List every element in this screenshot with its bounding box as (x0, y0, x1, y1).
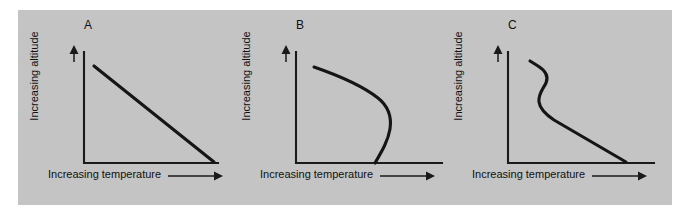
y-arrow-head-b (282, 45, 291, 54)
y-arrow-head-c (494, 45, 503, 54)
diagram-panel-a: A Increasing temperature Increasing alti… (18, 10, 236, 205)
diagram-panel-c: C Increasing temperature Increasing alti… (442, 10, 660, 205)
y-axis-arrow-b (230, 10, 448, 205)
y-axis-arrow-a (18, 10, 236, 205)
y-axis-arrow-c (442, 10, 660, 205)
figure-panel: A Increasing temperature Increasing alti… (18, 10, 672, 205)
y-arrow-head-a (70, 45, 79, 54)
diagram-panel-b: B Increasing temperature Increasing alti… (230, 10, 448, 205)
